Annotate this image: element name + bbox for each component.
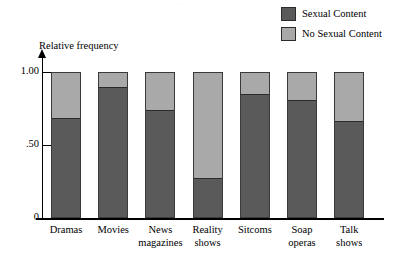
bar-segment-sexual-content xyxy=(146,110,174,217)
x-axis-label-line: shows xyxy=(171,236,245,249)
bar-news-magazines xyxy=(145,72,175,218)
bar-segment-sexual-content xyxy=(52,118,80,217)
bar-segment-sexual-content xyxy=(99,87,127,217)
bar-talk-shows xyxy=(334,72,364,218)
bar-dramas xyxy=(51,72,81,218)
bar-segment-sexual-content xyxy=(288,100,316,217)
x-axis-label-line: Talk xyxy=(312,223,386,236)
bar-segment-sexual-content xyxy=(335,121,363,217)
x-axis-label-line: shows xyxy=(312,236,386,249)
stacked-bar-chart: ·· Sexual Content No Sexual Content Rela… xyxy=(0,0,394,271)
x-axis-label-talk-shows: Talkshows xyxy=(312,223,386,249)
bar-segment-sexual-content xyxy=(241,94,269,217)
plot-area: 1.00 .50 0 DramasMoviesNewsmagazinesReal… xyxy=(0,0,394,271)
bar-reality-shows xyxy=(193,72,223,218)
bar-sitcoms xyxy=(240,72,270,218)
bar-soap-operas xyxy=(287,72,317,218)
bar-segment-sexual-content xyxy=(194,178,222,217)
bar-movies xyxy=(98,72,128,218)
